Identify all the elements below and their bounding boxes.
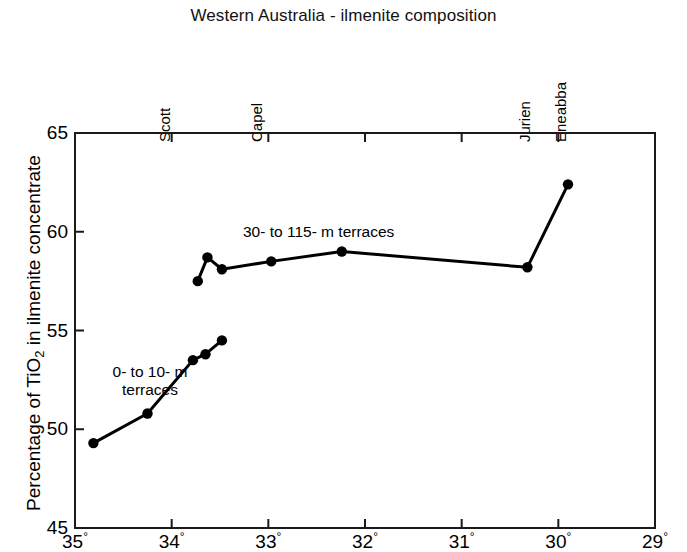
series-annotation-upper: 30- to 115- m terraces <box>243 223 394 241</box>
data-point <box>88 438 98 448</box>
data-point <box>200 349 210 359</box>
data-point <box>142 408 152 418</box>
data-point <box>193 276 203 286</box>
data-point <box>522 262 532 272</box>
plot-tick-marks <box>75 133 558 528</box>
annotation-lower-line1: 0- to 10- m <box>113 363 188 380</box>
plot-series-group <box>88 179 573 448</box>
data-point <box>266 256 276 266</box>
plot-frame-rect <box>75 133 655 528</box>
data-point <box>217 264 227 274</box>
annotation-lower-line2: terraces <box>122 381 178 398</box>
data-point <box>217 335 227 345</box>
data-point <box>563 179 573 189</box>
data-point <box>337 246 347 256</box>
series-annotation-lower: 0- to 10- m terraces <box>85 363 215 400</box>
data-point <box>202 252 212 262</box>
plot-frame <box>75 133 655 528</box>
